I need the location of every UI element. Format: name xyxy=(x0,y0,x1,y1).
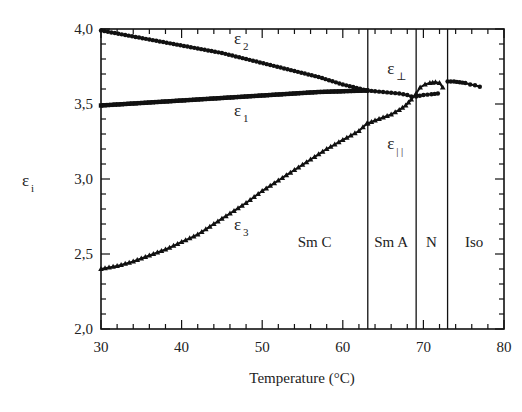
y-tick-label: 2,0 xyxy=(74,321,93,337)
svg-text:ε: ε xyxy=(234,101,241,120)
data-point xyxy=(473,83,477,87)
series-label: ε3 xyxy=(234,215,249,238)
x-tick-label: 50 xyxy=(255,339,270,355)
y-tick-label: 3,0 xyxy=(74,171,93,187)
svg-text:ε: ε xyxy=(234,29,241,48)
y-tick-label: 4,0 xyxy=(74,21,93,37)
x-tick-label: 30 xyxy=(94,339,109,355)
data-point xyxy=(401,92,405,96)
svg-text:| |: | | xyxy=(396,145,403,157)
y-tick-label: 3,5 xyxy=(74,96,93,112)
svg-text:3: 3 xyxy=(243,226,249,238)
phase-labels: Sm CSm ANIso xyxy=(298,234,484,250)
y-axis-title: ε i xyxy=(22,171,34,194)
svg-text:ε: ε xyxy=(387,59,394,78)
data-point xyxy=(377,89,381,93)
svg-text:⊥: ⊥ xyxy=(396,70,406,82)
x-axis-title: Temperature (°C) xyxy=(249,370,354,387)
svg-text:ε: ε xyxy=(387,134,394,153)
phase-label: Sm A xyxy=(374,234,408,250)
x-tick-label: 60 xyxy=(335,339,350,355)
series-Iso-circle xyxy=(445,79,482,89)
svg-text:ε: ε xyxy=(234,215,241,234)
data-point xyxy=(381,90,385,94)
y-tick-label: 2,5 xyxy=(74,246,93,262)
series-label: ε1 xyxy=(234,101,249,124)
y-axis-title-main: ε xyxy=(22,171,29,190)
data-point xyxy=(478,85,482,89)
phase-boundary-lines xyxy=(368,29,448,329)
data-point xyxy=(425,92,429,96)
svg-text:2: 2 xyxy=(243,40,249,52)
phase-label: Sm C xyxy=(298,234,332,250)
series-label: ε⊥ xyxy=(387,59,406,82)
series--circle xyxy=(366,88,441,98)
data-point xyxy=(421,93,425,97)
data-point xyxy=(418,94,422,98)
data-point xyxy=(436,91,440,95)
data-point xyxy=(393,91,397,95)
series-label: ε| | xyxy=(387,134,403,157)
data-point xyxy=(405,93,409,97)
data-point xyxy=(389,91,393,95)
x-tick-label: 40 xyxy=(174,339,189,355)
x-tick-label: 70 xyxy=(416,339,431,355)
svg-text:1: 1 xyxy=(243,112,249,124)
data-point xyxy=(397,91,401,95)
data-series xyxy=(98,28,482,271)
dielectric-permittivity-chart: 3040506070802,02,53,03,54,0 ε2ε1ε3ε⊥ε| |… xyxy=(0,0,522,412)
x-tick-label: 80 xyxy=(497,339,512,355)
data-point xyxy=(373,89,377,93)
data-point xyxy=(463,81,467,85)
data-point xyxy=(468,82,472,86)
y-axis-title-sub: i xyxy=(31,182,34,194)
data-point xyxy=(385,90,389,94)
series--triangle xyxy=(365,79,446,125)
phase-label: N xyxy=(426,234,437,250)
phase-label: Iso xyxy=(465,234,483,250)
